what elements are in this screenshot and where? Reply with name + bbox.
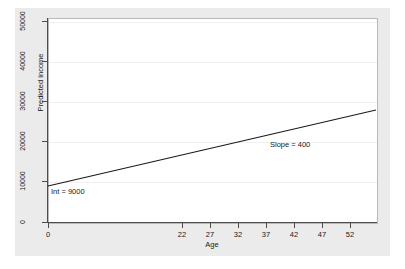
x-tick-mark bbox=[48, 223, 49, 228]
annotation-slope: Slope = 400 bbox=[270, 140, 310, 149]
y-tick-mark bbox=[42, 222, 47, 223]
regression-line bbox=[48, 18, 376, 222]
x-tick-mark bbox=[266, 223, 267, 228]
x-tick-label: 27 bbox=[206, 230, 214, 239]
x-tick-mark bbox=[294, 223, 295, 228]
y-tick-label: 20000 bbox=[19, 131, 26, 150]
x-tick-label: 22 bbox=[178, 230, 186, 239]
y-tick-mark bbox=[42, 21, 47, 22]
y-tick-label: 0 bbox=[19, 220, 26, 224]
x-axis-title: Age bbox=[48, 240, 376, 249]
y-axis-title: Predicted income bbox=[36, 54, 45, 112]
x-tick-mark bbox=[322, 223, 323, 228]
x-tick-label: 47 bbox=[318, 230, 326, 239]
x-tick-label: 42 bbox=[290, 230, 298, 239]
x-tick-label: 37 bbox=[262, 230, 270, 239]
y-tick-mark bbox=[42, 141, 47, 142]
x-tick-mark bbox=[350, 223, 351, 228]
x-tick-label: 32 bbox=[234, 230, 242, 239]
y-tick-label: 40000 bbox=[19, 51, 26, 70]
y-tick-mark bbox=[42, 181, 47, 182]
x-tick-mark bbox=[182, 223, 183, 228]
y-tick-label: 50000 bbox=[19, 11, 26, 30]
y-tick-label: 30000 bbox=[19, 91, 26, 110]
x-tick-mark bbox=[210, 223, 211, 228]
regression-line-segment bbox=[48, 110, 376, 186]
x-tick-mark bbox=[238, 223, 239, 228]
chart-figure: 50000 40000 30000 20000 10000 0 0 22 27 … bbox=[15, 8, 390, 256]
y-tick-label: 10000 bbox=[19, 171, 26, 190]
annotation-intercept: Int = 9000 bbox=[51, 187, 85, 196]
x-tick-label: 52 bbox=[346, 230, 354, 239]
x-axis-line bbox=[47, 222, 377, 223]
x-tick-label: 0 bbox=[46, 230, 50, 239]
